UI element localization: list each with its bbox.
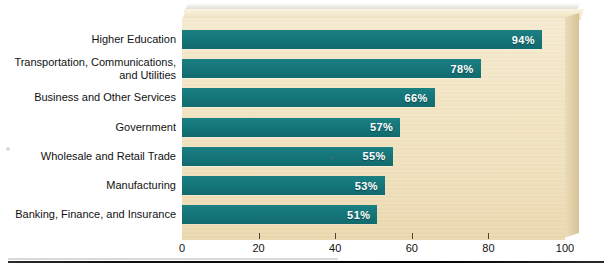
category-label-line1: Transportation, Communications, [14, 56, 176, 68]
x-axis-tick-label: 20 [252, 242, 264, 254]
x-axis-tick-label: 80 [482, 242, 494, 254]
category-label: Government [115, 121, 176, 134]
page-rule-soft [8, 258, 338, 260]
bar-value-label: 55% [362, 150, 385, 162]
category-label-line1: Government [115, 121, 176, 133]
category-label-line1: Wholesale and Retail Trade [41, 150, 176, 162]
x-axis-tick-label: 40 [329, 242, 341, 254]
category-label-line2: and Utilities [14, 69, 176, 82]
bar: 66% [182, 88, 435, 107]
scan-speck [236, 159, 238, 161]
bar: 53% [182, 176, 385, 195]
x-axis-tick-label: 0 [179, 242, 185, 254]
x-axis-tick [259, 233, 260, 239]
bar: 57% [182, 118, 400, 137]
bar-value-label: 57% [370, 121, 393, 133]
bar-value-label: 78% [451, 63, 474, 75]
category-label: Manufacturing [106, 179, 176, 192]
bar-value-label: 53% [355, 180, 378, 192]
category-label: Higher Education [92, 33, 176, 46]
x-axis-tick [488, 233, 489, 239]
category-label-line1: Higher Education [92, 33, 176, 45]
scan-speck [6, 147, 10, 151]
category-label: Business and Other Services [34, 91, 176, 104]
bar-value-label: 51% [347, 209, 370, 221]
category-label: Banking, Finance, and Insurance [15, 208, 176, 221]
bar-value-label: 94% [512, 34, 535, 46]
plot-area: 94%78%66%57%55%53%51% [182, 18, 565, 240]
scan-speck [331, 157, 334, 159]
bar-value-label: 66% [405, 92, 428, 104]
category-label: Wholesale and Retail Trade [41, 150, 176, 163]
category-label-line1: Business and Other Services [34, 91, 176, 103]
category-label-line1: Banking, Finance, and Insurance [15, 208, 176, 220]
x-axis-tick-label: 60 [406, 242, 418, 254]
x-axis-tick [335, 233, 336, 239]
bar: 94% [182, 30, 542, 49]
chart-figure: Higher EducationTransportation, Communic… [0, 0, 608, 268]
category-label: Transportation, Communications,and Utili… [14, 56, 176, 81]
bar: 51% [182, 205, 377, 224]
bar: 55% [182, 147, 393, 166]
x-axis-tick-label: 100 [556, 242, 574, 254]
x-axis-tick [412, 233, 413, 239]
bar: 78% [182, 59, 481, 78]
category-label-line1: Manufacturing [106, 179, 176, 191]
page-rule [8, 261, 604, 263]
